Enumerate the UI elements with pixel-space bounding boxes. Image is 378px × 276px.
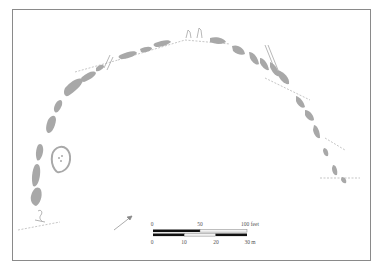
feet-tick-100: 100 feet [241, 221, 259, 227]
entrance-feature [35, 210, 45, 222]
meter-tick-30: 30 m [244, 239, 256, 245]
hut-circle [52, 147, 70, 172]
meter-bar-white [184, 234, 215, 237]
meter-tick-0: 0 [151, 239, 154, 245]
meter-bar-black-1 [153, 234, 184, 237]
meter-tick-10: 10 [181, 239, 187, 245]
stone-arc [31, 37, 347, 206]
feet-tick-50: 50 [197, 221, 203, 227]
survey-lines [18, 40, 360, 230]
feet-bar-black [153, 230, 200, 233]
meter-tick-20: 20 [213, 239, 219, 245]
feet-tick-0: 0 [151, 221, 154, 227]
site-plan: 0 50 100 feet 0 10 20 30 m [0, 0, 378, 276]
feet-bar-white [200, 230, 247, 233]
top-structures [104, 28, 278, 70]
meter-bar-black-2 [216, 234, 247, 237]
north-arrow-icon [114, 216, 132, 230]
scale-bar: 0 50 100 feet 0 10 20 30 m [151, 221, 260, 245]
